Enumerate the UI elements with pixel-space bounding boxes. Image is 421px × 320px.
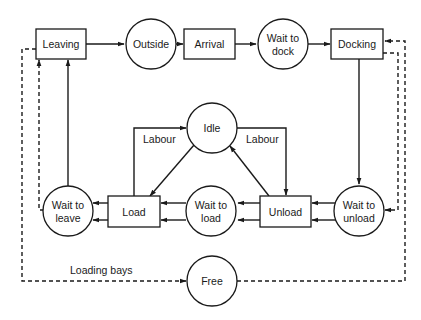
label-labour-left: Labour [143, 133, 176, 145]
node-wait-to-leave: Wait to leave [43, 186, 93, 236]
label-labour-right: Labour [246, 133, 279, 145]
edge-docking-wait-to-unload-dashed [383, 53, 398, 210]
wait-to-dock-label-2: dock [272, 45, 295, 57]
wait-to-load-label-2: load [201, 212, 221, 224]
idle-label: Idle [204, 122, 221, 134]
wait-to-leave-label-2: leave [55, 212, 80, 224]
label-loading-bays: Loading bays [70, 264, 132, 276]
edge-wait-to-leave-leaving-dashed [39, 60, 44, 210]
leaving-label: Leaving [43, 38, 80, 50]
node-wait-to-dock: Wait to dock [258, 19, 308, 69]
arrival-label: Arrival [195, 38, 225, 50]
unload-label: Unload [269, 206, 302, 218]
edges [22, 41, 405, 281]
wait-to-leave-circle [43, 186, 93, 236]
wait-to-unload-label-1: Wait to [343, 199, 375, 211]
load-label: Load [122, 206, 146, 218]
node-idle: Idle [187, 103, 237, 153]
node-wait-to-load: Wait to load [186, 186, 236, 236]
free-label: Free [201, 275, 223, 287]
wait-to-load-circle [186, 186, 236, 236]
node-load: Load [108, 196, 160, 227]
edge-unload-idle [230, 146, 269, 196]
node-outside: Outside [126, 19, 176, 69]
wait-to-load-label-1: Wait to [195, 199, 227, 211]
edge-free-docking [237, 41, 405, 281]
node-arrival: Arrival [184, 29, 235, 59]
node-leaving: Leaving [36, 29, 86, 59]
activity-cycle-diagram: Labour Labour Loading bays Leaving Outsi… [0, 0, 421, 320]
wait-to-unload-label-2: unload [343, 212, 375, 224]
docking-label: Docking [338, 38, 376, 50]
wait-to-dock-label-1: Wait to [267, 32, 299, 44]
node-free: Free [187, 256, 237, 306]
edge-idle-load [150, 145, 194, 196]
node-docking: Docking [331, 29, 383, 59]
edge-leaving-free-loading-bays [22, 49, 186, 281]
node-unload: Unload [260, 196, 311, 227]
node-wait-to-unload: Wait to unload [334, 186, 384, 236]
wait-to-dock-circle [258, 19, 308, 69]
wait-to-leave-label-1: Wait to [52, 199, 84, 211]
wait-to-unload-circle [334, 186, 384, 236]
outside-label: Outside [133, 38, 169, 50]
